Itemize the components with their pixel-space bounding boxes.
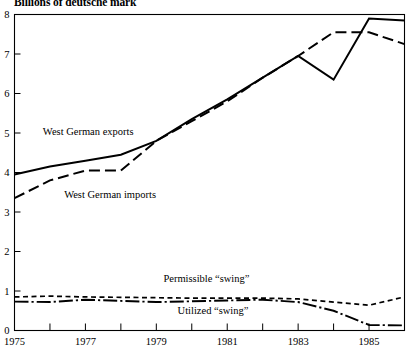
x-axis-tick-label: 1985 <box>359 336 380 347</box>
permissible-swing-label: Permissible “swing” <box>163 273 249 284</box>
x-axis-tick-label: 1981 <box>217 336 238 347</box>
y-axis-tick-label: 8 <box>4 9 9 20</box>
y-axis-tick-label: 2 <box>4 246 9 257</box>
y-axis-tick-label: 1 <box>4 286 9 297</box>
x-axis-tick-label: 1979 <box>146 336 167 347</box>
utilized-swing-label: Utilized “swing” <box>178 305 249 316</box>
y-axis-tick-label: 6 <box>4 88 9 99</box>
y-axis-tick-label: 3 <box>4 207 9 218</box>
x-axis-tick-label: 1975 <box>4 336 25 347</box>
y-axis-tick-label: 4 <box>4 167 10 178</box>
imports-label: West German imports <box>64 189 156 200</box>
y-axis-tick-label: 7 <box>4 49 9 60</box>
chart-container: Billions of deutsche mark 01234567819751… <box>0 0 419 351</box>
y-axis-tick-label: 5 <box>4 128 9 139</box>
series-line-west-german-exports <box>15 18 405 174</box>
x-axis-tick-label: 1977 <box>75 336 96 347</box>
exports-label: West German exports <box>43 126 134 137</box>
x-axis-tick-label: 1983 <box>288 336 309 347</box>
line-chart-plot: 012345678197519771979198119831985West Ge… <box>0 0 419 351</box>
